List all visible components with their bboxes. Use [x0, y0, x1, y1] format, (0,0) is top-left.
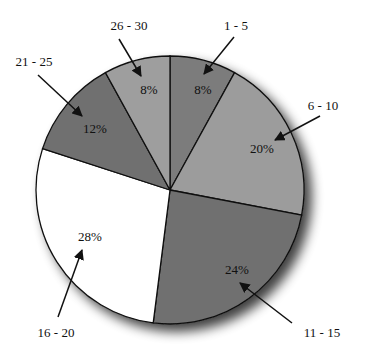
slice-percent-label: 24%: [225, 262, 249, 277]
slice-category-label: 1 - 5: [224, 18, 248, 33]
slice-category-label: 11 - 15: [304, 325, 340, 340]
slice-percent-label: 20%: [250, 141, 274, 156]
slice-category-label: 16 - 20: [38, 325, 75, 340]
slice-category-label: 26 - 30: [111, 18, 148, 33]
slice-category-label: 6 - 10: [308, 98, 338, 113]
slice-percent-label: 8%: [140, 82, 158, 97]
pie-chart: 8%20%24%28%12%8% 1 - 56 - 1011 - 1516 - …: [0, 0, 368, 363]
slice-percent-label: 28%: [78, 229, 102, 244]
slice-category-label: 21 - 25: [16, 54, 53, 69]
pie-group: [36, 56, 304, 324]
slice-percent-label: 12%: [83, 121, 107, 136]
slice-percent-label: 8%: [194, 82, 212, 97]
callout-arrow-icon: [240, 283, 292, 323]
